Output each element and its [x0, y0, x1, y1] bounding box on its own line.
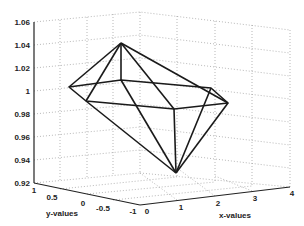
svg-text:0.96: 0.96	[14, 133, 30, 142]
grid-lines	[34, 12, 290, 200]
svg-text:0.98: 0.98	[14, 110, 30, 119]
y-axis-label: y-values	[46, 209, 79, 218]
svg-text:0: 0	[81, 199, 86, 208]
svg-text:4: 4	[290, 189, 295, 198]
svg-text:0.5: 0.5	[46, 193, 58, 202]
svg-text:1: 1	[179, 203, 184, 212]
svg-text:0.92: 0.92	[14, 179, 30, 188]
svg-text:1.02: 1.02	[14, 64, 30, 73]
wireframe-shape	[69, 43, 228, 173]
svg-text:-0.5: -0.5	[96, 204, 110, 213]
chart-3d-wireframe: 1.06 1.04 1.02 1 0.98 0.96 0.94 0.92 1 0…	[0, 0, 304, 226]
svg-text:-1: -1	[129, 207, 137, 216]
svg-text:1.06: 1.06	[14, 18, 30, 27]
svg-text:3: 3	[253, 194, 258, 203]
x-axis-label: x-values	[219, 211, 252, 220]
svg-text:2: 2	[216, 199, 221, 208]
svg-text:1: 1	[32, 186, 37, 195]
z-axis-ticks: 1.06 1.04 1.02 1 0.98 0.96 0.94 0.92	[14, 18, 30, 188]
svg-text:0.94: 0.94	[14, 156, 30, 165]
svg-text:0: 0	[145, 207, 150, 216]
axes	[34, 22, 290, 205]
svg-text:1.04: 1.04	[14, 41, 30, 50]
svg-text:1: 1	[26, 87, 31, 96]
